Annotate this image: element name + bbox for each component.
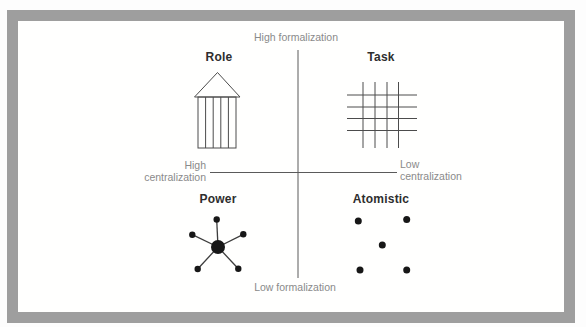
- hub-spoke-icon: [189, 216, 246, 272]
- temple-columns-icon: [195, 73, 241, 149]
- axes: [210, 50, 397, 278]
- axis-label-high-centralization-line2: centralization: [144, 171, 206, 183]
- quadrant-label-role: Role: [206, 50, 233, 64]
- grid-lattice-icon: [347, 82, 417, 148]
- quadrant-label-atomistic: Atomistic: [353, 192, 409, 206]
- diagram-page: High formalization Low formalization Hig…: [0, 0, 586, 327]
- axis-label-high-centralization-line1: High: [184, 159, 206, 171]
- scattered-dots-icon: [355, 216, 410, 274]
- axis-label-high-centralization: High centralization: [144, 159, 206, 183]
- quadrant-label-task: Task: [367, 50, 394, 64]
- axis-label-low-centralization-line2: centralization: [400, 170, 462, 182]
- quadrant-label-power: Power: [199, 192, 236, 206]
- axis-label-low-formalization: Low formalization: [254, 281, 336, 293]
- axis-label-high-formalization: High formalization: [254, 31, 338, 43]
- axis-label-low-centralization-line1: Low: [400, 158, 419, 170]
- diagram-svg: [0, 0, 586, 327]
- axis-label-low-centralization: Low centralization: [400, 158, 462, 182]
